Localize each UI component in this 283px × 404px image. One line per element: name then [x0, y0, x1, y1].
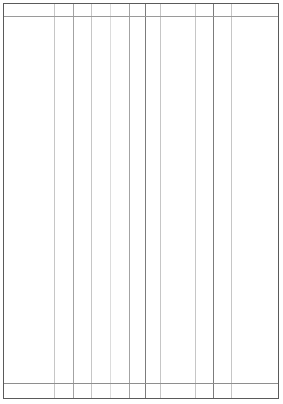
- header-cell-3: [73, 6, 91, 15]
- column-divider-8[interactable]: [195, 4, 196, 398]
- column-divider-9[interactable]: [213, 4, 214, 398]
- footer-cell-8: [160, 386, 195, 395]
- footer-cell-4: [91, 386, 110, 395]
- header-cell-7: [145, 6, 160, 15]
- footer-cell-7: [145, 386, 160, 395]
- header-cell-6: [129, 6, 145, 15]
- column-divider-10[interactable]: [231, 4, 232, 398]
- footer-cell-10: [213, 386, 231, 395]
- header-cell-8: [160, 6, 195, 15]
- header-separator: [4, 16, 278, 17]
- footer-cell-11: [231, 386, 278, 395]
- header-cell-2: [54, 6, 73, 15]
- footer-cell-2: [54, 386, 73, 395]
- footer-cell-5: [110, 386, 129, 395]
- table-grid: [3, 3, 279, 399]
- footer-cell-6: [129, 386, 145, 395]
- column-divider-5[interactable]: [129, 4, 130, 398]
- header-cell-4: [91, 6, 110, 15]
- header-cell-1: [4, 6, 54, 15]
- column-divider-2[interactable]: [73, 4, 74, 398]
- footer-cell-3: [73, 386, 91, 395]
- footer-cell-1: [4, 386, 54, 395]
- header-cell-9: [195, 6, 213, 15]
- header-cell-11: [231, 6, 278, 15]
- header-cell-10: [213, 6, 231, 15]
- footer-separator: [4, 383, 278, 384]
- column-divider-4[interactable]: [110, 4, 111, 398]
- column-divider-1[interactable]: [54, 4, 55, 398]
- table-body-region[interactable]: [4, 17, 278, 383]
- footer-cell-9: [195, 386, 213, 395]
- column-divider-3[interactable]: [91, 4, 92, 398]
- header-cell-5: [110, 6, 129, 15]
- column-divider-6[interactable]: [145, 4, 146, 398]
- column-divider-7[interactable]: [160, 4, 161, 398]
